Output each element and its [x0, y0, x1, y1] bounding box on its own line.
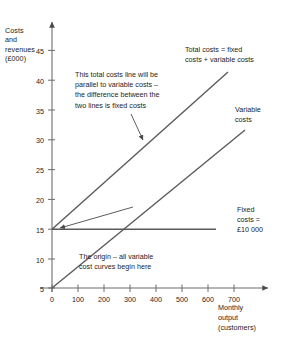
x-tick-label-600: 600 [197, 295, 219, 304]
chart-figure: Costs and revenues (£000) 45 40 35 30 25… [0, 0, 284, 346]
y-tick-label-10: 10 [26, 256, 44, 265]
y-tick-label-25: 25 [26, 166, 44, 175]
y-tick-label-15: 15 [26, 226, 44, 235]
x-tick-label-100: 100 [67, 295, 89, 304]
annotation-origin: The origin – all variable cost curves be… [79, 252, 153, 272]
x-tick-label-500: 500 [171, 295, 193, 304]
x-tick-label-400: 400 [145, 295, 167, 304]
series-label-variable-costs: Variable costs [235, 105, 261, 125]
x-tick-label-0: 0 [41, 295, 63, 304]
y-tick-label-45: 45 [26, 47, 44, 56]
y-axis-title: Costs and revenues (£000) [5, 26, 35, 63]
y-tick-label-5: 5 [26, 285, 44, 294]
x-tick-label-200: 200 [93, 295, 115, 304]
annotation-arrow-origin [60, 207, 133, 228]
y-tick-label-20: 20 [26, 196, 44, 205]
annotation-arrow-total-costs [131, 114, 143, 140]
y-tick-label-30: 30 [26, 136, 44, 145]
x-axis-title: Monthly output (customers) [218, 303, 256, 334]
y-tick-label-40: 40 [26, 77, 44, 86]
series-label-fixed-costs: Fixed costs = £10 000 [237, 205, 263, 236]
y-tick-label-35: 35 [26, 107, 44, 116]
annotation-total-costs: This total costs line will be parallel t… [75, 70, 160, 111]
series-label-total-costs: Total costs = fixed costs + variable cos… [185, 45, 254, 65]
x-tick-label-300: 300 [119, 295, 141, 304]
